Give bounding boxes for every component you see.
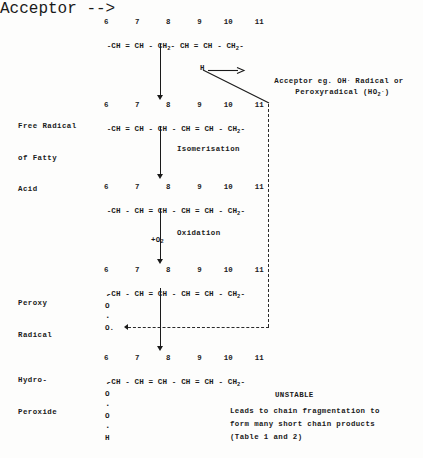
- stage-4-label: Peroxy Radical: [18, 277, 52, 361]
- arrow-2-head: [157, 174, 163, 179]
- stage-2-carbon-numbers: 6 7 8 9 10 11: [104, 101, 264, 110]
- atom-label: O.: [105, 324, 114, 335]
- chain-segment: -: [240, 290, 245, 298]
- arrow-4-head: [157, 346, 163, 351]
- bond-dot: .: [105, 401, 110, 412]
- acceptor-line-2: Peroxyradical (HO2.): [276, 74, 390, 112]
- oxidation-reagent: +O2: [132, 228, 164, 253]
- reagent-text: +O: [151, 236, 160, 244]
- chain-segment: -CH = CH - CH - CH = CH - CH: [107, 125, 237, 133]
- chain-segment: -CH - CH = CH - CH = CH - CH: [107, 207, 237, 215]
- atom-label: H: [105, 434, 110, 445]
- bond-dot: .: [105, 291, 114, 302]
- reagent-subscript: 2: [160, 239, 164, 245]
- label-line: Acid: [18, 184, 77, 195]
- acceptor-text: ): [385, 88, 390, 96]
- peroxy-c8-bond: [160, 288, 161, 328]
- label-line: Peroxide: [18, 407, 57, 418]
- acceptor-text: Peroxyradical (HO: [295, 88, 377, 96]
- peroxy-oxygen-column: . O . O.: [105, 291, 114, 335]
- h-return-dashed-horizontal: [128, 327, 269, 328]
- bond-dot: .: [105, 313, 114, 324]
- arrow-1-head: [157, 95, 163, 100]
- chain-segment: -CH - CH = CH - CH = CH - CH: [107, 290, 237, 298]
- oxidation-label: Oxidation: [177, 228, 221, 240]
- bond-dot: .: [105, 423, 110, 434]
- arrow-3-head: [157, 259, 163, 264]
- stage-1-chain: -CH = CH - CH2- CH = CH - CH2-: [88, 31, 244, 64]
- footnote-line-3: (Table 1 and 2): [230, 432, 303, 444]
- stage-3-chain: -CH - CH = CH - CH = CH - CH2-: [88, 196, 245, 229]
- label-line: of Fatty: [18, 153, 77, 164]
- stage-1-carbon-numbers: 6 7 8 9 10 11: [104, 18, 264, 27]
- chain-segment: -CH - CH = CH - CH = CH - CH: [107, 378, 237, 386]
- arrow-1-shaft: [160, 44, 161, 96]
- isomerisation-label: Isomerisation: [177, 144, 240, 156]
- footnote-heading: UNSTABLE: [275, 390, 314, 402]
- stage-5-chain: -CH - CH = CH - CH = CH - CH2-: [88, 367, 245, 400]
- footnote-line-2: form many short chain products: [230, 419, 375, 431]
- label-line: Peroxy: [18, 298, 52, 309]
- chain-segment: -CH = CH - CH: [107, 42, 168, 50]
- chain-segment: -: [240, 207, 245, 215]
- arrow-2-shaft: [160, 126, 161, 175]
- stage-2-chain: -CH = CH - CH - CH = CH - CH2-: [88, 114, 245, 147]
- h-return-dashed-vertical: [268, 104, 269, 327]
- chain-segment: -: [240, 378, 245, 386]
- bond-dot: .: [105, 379, 110, 390]
- stage-5-carbon-numbers: 6 7 8 9 10 11: [104, 354, 264, 363]
- stage-5-label: Hydro- Peroxide: [18, 354, 57, 438]
- chain-segment: -: [239, 42, 244, 50]
- stage-3-carbon-numbers: 6 7 8 9 10 11: [104, 183, 264, 192]
- stage-2-label: Free Radical of Fatty Acid: [18, 100, 77, 216]
- footnote-line-1: Leads to chain fragmentation to: [230, 406, 380, 418]
- chain-segment: -: [240, 125, 245, 133]
- label-line: Hydro-: [18, 375, 57, 386]
- label-line: Radical: [18, 330, 52, 341]
- stage-4-carbon-numbers: 6 7 8 9 10 11: [104, 266, 264, 275]
- h-return-arrow-head: [124, 324, 128, 330]
- chain-segment: - CH = CH - CH: [171, 42, 236, 50]
- diagram-page: 6 7 8 9 10 11 -CH = CH - CH2- CH = CH - …: [0, 0, 423, 458]
- hydroperoxide-oxygen-column: . O . O . H: [105, 379, 110, 445]
- label-line: Free Radical: [18, 121, 77, 132]
- arrow-4-shaft: [160, 328, 161, 348]
